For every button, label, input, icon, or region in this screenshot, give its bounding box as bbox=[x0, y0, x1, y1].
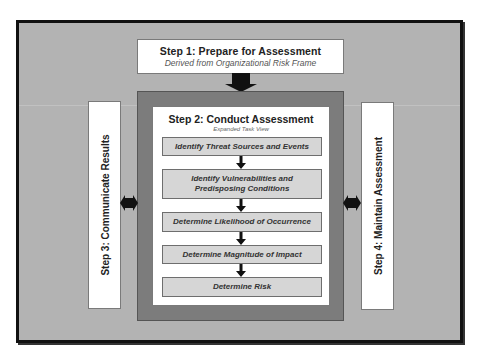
down-arrow-icon bbox=[225, 73, 257, 92]
task-label: Identify Vulnerabilities and Predisposin… bbox=[177, 174, 307, 194]
down-arrow-icon bbox=[236, 156, 246, 169]
step1-subtitle: Derived from Organizational Risk Frame bbox=[138, 58, 343, 68]
step1-box: Step 1: Prepare for Assessment Derived f… bbox=[137, 39, 344, 74]
task-determine-likelihood: Determine Likelihood of Occurrence bbox=[162, 212, 322, 232]
down-arrow-icon bbox=[236, 232, 246, 245]
task-identify-threats: Identify Threat Sources and Events bbox=[162, 137, 322, 156]
step1-title: Step 1: Prepare for Assessment bbox=[138, 45, 343, 57]
double-arrow-icon bbox=[343, 195, 361, 211]
step2-subtitle: Expanded Task View bbox=[152, 126, 330, 132]
down-arrow-icon bbox=[236, 264, 246, 277]
task-label: Determine Magnitude of Impact bbox=[182, 250, 301, 260]
task-label: Identify Threat Sources and Events bbox=[175, 142, 309, 152]
step2-title: Step 2: Conduct Assessment bbox=[152, 113, 330, 125]
task-determine-risk: Determine Risk bbox=[162, 277, 322, 297]
task-label: Determine Risk bbox=[213, 282, 271, 292]
task-label: Determine Likelihood of Occurrence bbox=[173, 217, 311, 227]
step4-box: Step 4: Maintain Assessment bbox=[361, 102, 394, 310]
step3-title: Step 3: Communicate Results bbox=[99, 134, 110, 275]
down-arrow-icon bbox=[236, 199, 246, 212]
double-arrow-icon bbox=[120, 195, 138, 211]
step4-title: Step 4: Maintain Assessment bbox=[372, 137, 383, 275]
step3-box: Step 3: Communicate Results bbox=[88, 101, 121, 309]
task-determine-impact: Determine Magnitude of Impact bbox=[162, 245, 322, 264]
task-identify-vulnerabilities: Identify Vulnerabilities and Predisposin… bbox=[162, 169, 322, 199]
